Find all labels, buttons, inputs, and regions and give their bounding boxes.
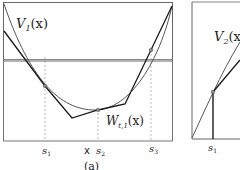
- x-marker: x: [84, 145, 90, 156]
- v1-curve: [4, 4, 172, 110]
- v2-curve: [192, 42, 240, 138]
- v2-tick-s1: s1: [208, 142, 217, 154]
- v2-knot-s1: [211, 90, 215, 94]
- knot-s3: [149, 48, 153, 52]
- tick-s2: s2: [96, 145, 105, 157]
- w-label: Wt,1(x): [106, 114, 144, 130]
- figure: V1(x) Wt,1(x) s1 x s2 s3 (a) V2(x) s1: [0, 0, 240, 170]
- tick-s1: s1: [42, 145, 51, 157]
- v2-approx-line: [213, 60, 240, 92]
- knot-s1: [43, 84, 47, 88]
- v1-label: V1(x): [16, 16, 48, 33]
- tick-s3: s3: [149, 143, 158, 155]
- knot-s2: [96, 108, 100, 112]
- v2-label: V2(x): [214, 29, 240, 46]
- caption-a: (a): [84, 160, 99, 170]
